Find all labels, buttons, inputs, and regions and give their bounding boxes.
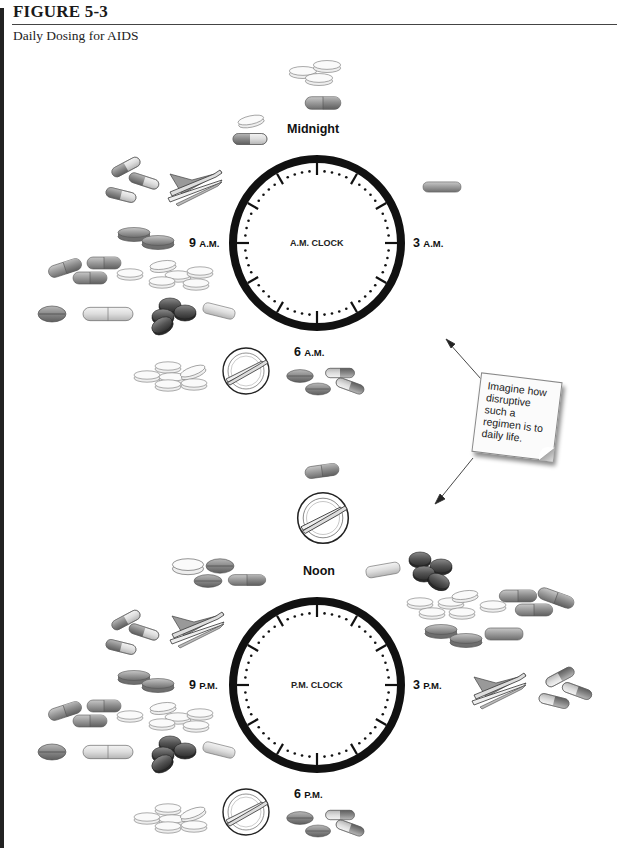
pill-group-6pm: [134, 789, 365, 837]
pill-group-pm-10: [105, 608, 224, 655]
pill-group-3am: [423, 182, 461, 192]
am-clock-label: A.M. CLOCK: [290, 238, 344, 248]
pill-group-6am: [134, 348, 365, 395]
pm-clock-label: P.M. CLOCK: [291, 680, 343, 690]
label-9am: 9 A.M.: [189, 236, 219, 250]
pill-group-post-noon: [365, 552, 575, 648]
label-6pm: 6 P.M.: [294, 787, 323, 801]
pill-group-am-10: [105, 155, 222, 206]
pill-group-3pm: [472, 665, 593, 709]
label-3pm: 3 P.M.: [413, 678, 442, 692]
label-3am: 3 A.M.: [413, 236, 443, 250]
pill-group-pre-midnight: [233, 113, 267, 144]
callout-note: Imagine how disruptive such a regimen is…: [471, 372, 562, 461]
label-noon: Noon: [303, 564, 335, 578]
pill-group-midnight: [289, 61, 341, 110]
label-9pm: 9 P.M.: [189, 678, 218, 692]
pill-group-pre-noon: [172, 559, 265, 588]
label-6am: 6 A.M.: [294, 345, 324, 359]
pill-group-noon: [298, 463, 349, 544]
label-midnight: Midnight: [287, 122, 339, 136]
callout-text: Imagine how disruptive such a regimen is…: [481, 379, 547, 444]
page-curl-icon: [539, 446, 555, 462]
